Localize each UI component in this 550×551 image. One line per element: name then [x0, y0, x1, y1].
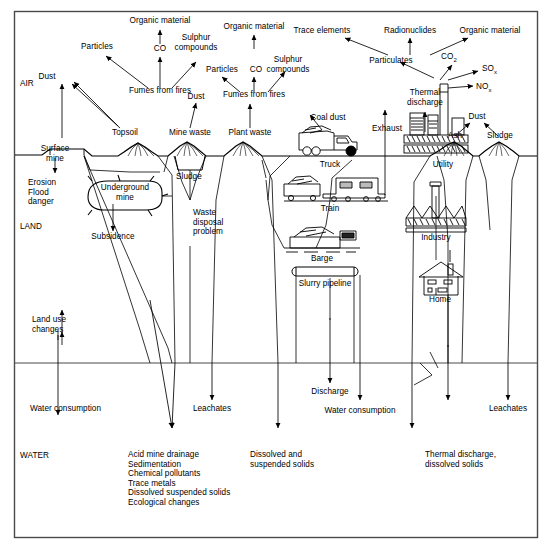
label-thermal-discharge-air: Thermal discharge	[407, 88, 443, 107]
label-radionuclides: Radionuclides	[384, 26, 436, 36]
label-erosion-flood-danger: Erosion Flood danger	[28, 178, 56, 207]
diagram-canvas: AIR LAND WATER Organic material Particle…	[0, 0, 550, 551]
label-fumes-from-fires-2: Fumes from fires	[223, 90, 285, 100]
label-plant-waste: Plant waste	[229, 128, 272, 138]
label-utility: Utility	[433, 160, 453, 170]
land-connectors	[84, 155, 519, 363]
label-topsoil: Topsoil	[112, 128, 138, 138]
label-slurry-pipeline: Slurry pipeline	[299, 279, 352, 289]
label-waste-disposal-problem: Waste disposal problem	[193, 208, 223, 237]
label-home: Home	[429, 295, 451, 305]
label-nox: NOx	[476, 82, 491, 95]
label-dust-1: Dust	[38, 72, 55, 82]
barge-icon	[284, 227, 360, 252]
label-organic-material-1: Organic material	[130, 16, 191, 26]
label-sox: SOx	[482, 64, 497, 77]
label-dissolved-suspended-solids: Dissolved and suspended solids	[250, 450, 314, 469]
label-coal-dust: Coal dust	[310, 113, 345, 123]
label-train: Train	[321, 204, 340, 214]
water-connectors	[58, 275, 448, 385]
zone-label-water: WATER	[20, 451, 49, 461]
label-subsidence: Subsidence	[91, 232, 134, 242]
label-barge: Barge	[311, 254, 333, 264]
label-dust-2: Dust	[187, 92, 204, 102]
label-ash: Ash	[448, 131, 462, 141]
label-truck: Truck	[320, 160, 340, 170]
label-land-use-changes: Land use changes	[32, 315, 66, 334]
label-thermal-discharge-water: Thermal discharge, dissolved solids	[425, 450, 496, 469]
label-leachates-2: Leachates	[489, 404, 527, 414]
label-co-1: CO	[154, 44, 166, 54]
label-sludge-pile: Sludge	[487, 131, 513, 141]
sludge-mound	[489, 142, 509, 156]
label-fumes-from-fires-1: Fumes from fires	[129, 86, 191, 96]
zone-label-land: LAND	[20, 222, 42, 232]
label-industry: Industry	[421, 233, 451, 243]
label-sulphur-compounds-2: Sulphur compounds	[267, 55, 310, 74]
label-co2: CO2	[441, 52, 457, 65]
label-acid-mine-drainage-list: Acid mine drainage Sedimentation Chemica…	[128, 450, 230, 508]
water-arrows	[58, 300, 508, 428]
label-exhaust: Exhaust	[372, 124, 402, 134]
label-co-2: CO	[250, 65, 262, 75]
label-dust-3: Dust	[468, 112, 485, 122]
label-particles-1: Particles	[81, 42, 113, 52]
label-leachates-1: Leachates	[193, 404, 231, 414]
label-sulphur-compounds-1: Sulphur compounds	[175, 33, 218, 52]
train-icon	[284, 176, 388, 201]
label-trace-elements: Trace elements	[294, 26, 351, 36]
sludge-basin	[175, 156, 205, 170]
label-particulates: Particulates	[369, 56, 412, 66]
label-organic-material-3: Organic material	[460, 26, 521, 36]
slurry-pipeline-icon	[292, 267, 358, 276]
label-underground-mine: Underground mine	[101, 183, 149, 202]
truck-icon	[299, 126, 357, 156]
label-mine-waste: Mine waste	[169, 128, 211, 138]
mine-waste-mound	[177, 142, 203, 156]
plant-waste-mound	[233, 142, 259, 156]
home-icon	[419, 250, 463, 295]
label-water-consumption-1: Water consumption	[30, 404, 101, 414]
label-surface-mine: Surface mine	[41, 144, 70, 163]
label-water-consumption-2: Water consumption	[324, 406, 395, 416]
label-organic-material-2: Organic material	[224, 22, 285, 32]
zone-label-air: AIR	[20, 79, 34, 89]
label-particles-2: Particles	[206, 65, 238, 75]
label-sludge: Sludge	[176, 172, 202, 182]
label-discharge: Discharge	[311, 387, 348, 397]
